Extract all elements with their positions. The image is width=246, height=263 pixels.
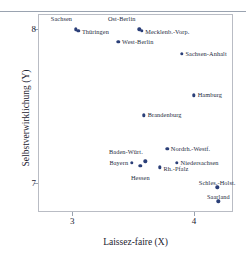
data-point-label: Schles.-Holst. [199,180,236,186]
y-tick-label: 7 [32,178,37,188]
data-point-label: Sachsen [51,15,72,21]
x-tick-label: 4 [192,216,197,226]
data-point-label: Thüringen [82,29,109,35]
data-point-label: Baden-Würt. [109,149,143,155]
data-point-label: Hessen [131,175,150,181]
data-point-label: Saarland [207,194,230,200]
data-point-label: Bayern [109,160,128,166]
data-point-label: Hamburg [198,92,222,98]
data-point-label: Mecklenb.-Vorp. [145,29,189,35]
data-point-label: West-Berlin [122,38,153,44]
x-axis-label: Laissez-faire (X) [38,237,233,247]
x-tick-label: 3 [70,216,75,226]
y-tick-label: 8 [32,24,37,34]
data-point-label: Brandenburg [148,112,182,118]
data-point-label: Sachsen-Anhalt [185,51,226,57]
data-point-label: Ost-Berlin [108,15,136,21]
y-axis-label: Selbstverwirklichung (Y) [21,38,31,198]
scatter-chart-figure: Selbstverwirklichung (Y) Laissez-faire (… [0,0,246,263]
data-point-label: Rh.-Pfalz [164,166,189,172]
data-point-label: Nordrh.-Westf. [171,146,210,152]
